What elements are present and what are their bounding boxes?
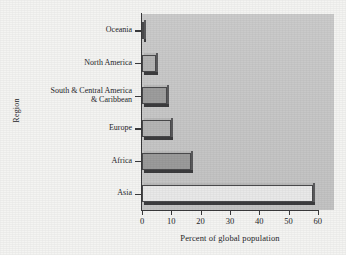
y-axis-tick-label-line: North America [12, 58, 132, 68]
bar [142, 120, 171, 137]
x-axis-tick [142, 211, 143, 215]
bar-face [142, 153, 191, 170]
y-axis-tick-label-line: Europe [12, 123, 132, 133]
plot-background [142, 14, 334, 210]
bar-drop-shadow [144, 170, 193, 173]
y-axis-tick-label: Europe [12, 123, 132, 133]
y-axis-tick [135, 161, 141, 162]
y-axis-tick-label: South & Central America& Caribbean [12, 86, 132, 105]
y-axis-line [141, 13, 142, 211]
x-axis-tick-label: 50 [274, 216, 304, 226]
y-axis-tick-label-line: & Caribbean [12, 95, 132, 105]
x-axis-title: Percent of global population [142, 233, 318, 243]
x-axis-tick [201, 211, 202, 215]
y-axis-tick [135, 128, 141, 129]
bar [142, 55, 156, 72]
plot-area [142, 14, 334, 210]
y-axis-tick-label-line: Oceania [12, 25, 132, 35]
bar-face [142, 185, 313, 202]
x-axis-tick [230, 211, 231, 215]
x-axis-tick [289, 211, 290, 215]
y-axis-tick [135, 96, 141, 97]
x-axis-tick-label: 0 [127, 216, 157, 226]
x-axis-tick [171, 211, 172, 215]
y-axis-tick-label-line: Africa [12, 156, 132, 166]
bar-face [142, 120, 171, 137]
y-axis-tick [135, 63, 141, 64]
y-axis-tick-label: North America [12, 58, 132, 68]
x-axis-tick-label: 20 [186, 216, 216, 226]
bar-drop-shadow [144, 202, 315, 205]
x-axis-tick-label: 60 [303, 216, 333, 226]
y-axis-tick-label-line: Asia [12, 188, 132, 198]
bar-face [142, 87, 167, 104]
bar-drop-shadow [144, 72, 158, 75]
y-axis-tick [135, 30, 141, 31]
y-axis-tick-label-line: South & Central America [12, 86, 132, 96]
bar-drop-shadow [144, 104, 169, 107]
bar-face [142, 55, 156, 72]
y-axis-tick-label: Asia [12, 188, 132, 198]
bar [142, 153, 191, 170]
bar-drop-shadow [144, 39, 146, 42]
bar-chart-figure: Region OceaniaNorth AmericaSouth & Centr… [0, 0, 346, 255]
bar [142, 87, 167, 104]
x-axis-tick-label: 10 [156, 216, 186, 226]
x-axis-tick-label: 30 [215, 216, 245, 226]
bar-face [142, 22, 144, 39]
x-axis-tick-label: 40 [244, 216, 274, 226]
y-axis-tick-label: Africa [12, 156, 132, 166]
y-axis-tick [135, 194, 141, 195]
bar [142, 22, 144, 39]
x-axis-tick [318, 211, 319, 215]
y-axis-tick-label: Oceania [12, 25, 132, 35]
bar [142, 185, 313, 202]
x-axis-tick [259, 211, 260, 215]
bar-drop-shadow [144, 137, 173, 140]
